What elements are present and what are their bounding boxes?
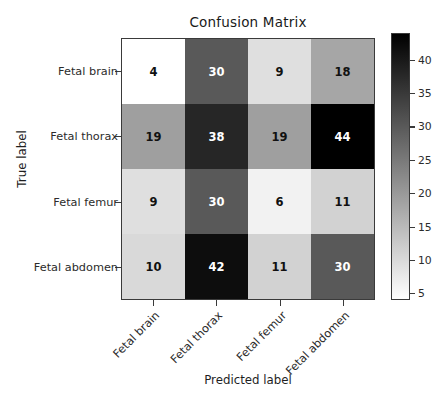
colorbar-tick-label: 30 bbox=[418, 120, 432, 133]
cell-value: 19 bbox=[271, 130, 287, 144]
cell-value: 4 bbox=[149, 65, 157, 79]
cell-value: 19 bbox=[145, 130, 161, 144]
colorbar-tick-mark bbox=[410, 227, 415, 228]
cell-value: 11 bbox=[271, 260, 287, 274]
heatmap-cell: 9 bbox=[122, 169, 185, 234]
x-tick-mark bbox=[153, 300, 154, 306]
heatmap-axes: 4309181938194493061110421130 bbox=[121, 38, 375, 300]
colorbar-tick-label: 10 bbox=[418, 253, 432, 266]
heatmap-cell: 6 bbox=[248, 169, 311, 234]
heatmap-cell: 30 bbox=[311, 234, 374, 299]
colorbar-tick-label: 15 bbox=[418, 220, 432, 233]
colorbar-tick-label: 25 bbox=[418, 153, 432, 166]
cell-value: 42 bbox=[208, 260, 224, 274]
heatmap-cell: 18 bbox=[311, 39, 374, 104]
heatmap-cell: 11 bbox=[311, 169, 374, 234]
heatmap-cell: 38 bbox=[185, 104, 248, 169]
heatmap-cell: 30 bbox=[185, 169, 248, 234]
colorbar-gradient bbox=[391, 33, 410, 300]
x-axis-label: Predicted label bbox=[121, 373, 375, 387]
cell-value: 30 bbox=[334, 260, 350, 274]
y-tick-label: Fetal abdomen bbox=[34, 261, 118, 274]
colorbar-tick-label: 20 bbox=[418, 187, 432, 200]
y-axis-label: True label bbox=[15, 79, 29, 239]
heatmap-cell: 11 bbox=[248, 234, 311, 299]
heatmap-cell: 44 bbox=[311, 104, 374, 169]
colorbar-tick-label: 5 bbox=[418, 287, 425, 300]
colorbar-tick-mark bbox=[410, 260, 415, 261]
x-tick-label: Fetal brain bbox=[11, 309, 162, 401]
cell-value: 10 bbox=[145, 260, 161, 274]
chart-title: Confusion Matrix bbox=[121, 14, 375, 30]
colorbar-tick-mark bbox=[410, 293, 415, 294]
colorbar-tick-mark bbox=[410, 93, 415, 94]
colorbar-tick-mark bbox=[410, 193, 415, 194]
y-tick-label: Fetal femur bbox=[53, 195, 118, 208]
cell-value: 18 bbox=[334, 65, 350, 79]
x-tick-label: Fetal abdomen bbox=[202, 309, 353, 401]
heatmap-cell: 9 bbox=[248, 39, 311, 104]
colorbar-tick-label: 35 bbox=[418, 87, 432, 100]
heatmap-cell: 10 bbox=[122, 234, 185, 299]
cell-value: 30 bbox=[208, 65, 224, 79]
x-tick-label: Fetal femur bbox=[138, 309, 289, 401]
heatmap-cell: 42 bbox=[185, 234, 248, 299]
y-tick-label: Fetal brain bbox=[58, 64, 118, 77]
x-tick-mark bbox=[343, 300, 344, 306]
cell-value: 6 bbox=[275, 195, 283, 209]
confusion-matrix-figure: Confusion Matrix 43091819381944930611104… bbox=[0, 0, 444, 401]
cell-value: 9 bbox=[275, 65, 283, 79]
cell-value: 11 bbox=[334, 195, 350, 209]
cell-value: 38 bbox=[208, 130, 224, 144]
x-tick-mark bbox=[216, 300, 217, 306]
cell-value: 30 bbox=[208, 195, 224, 209]
colorbar: 403530252015105 bbox=[391, 33, 410, 300]
heatmap-grid: 4309181938194493061110421130 bbox=[122, 39, 374, 299]
colorbar-tick-mark bbox=[410, 126, 415, 127]
cell-value: 9 bbox=[149, 195, 157, 209]
colorbar-tick-mark bbox=[410, 60, 415, 61]
x-tick-mark bbox=[280, 300, 281, 306]
heatmap-cell: 19 bbox=[248, 104, 311, 169]
heatmap-cell: 30 bbox=[185, 39, 248, 104]
y-tick-label: Fetal thorax bbox=[50, 130, 118, 143]
x-tick-label: Fetal thorax bbox=[75, 309, 226, 401]
colorbar-tick-label: 40 bbox=[418, 53, 432, 66]
colorbar-tick-mark bbox=[410, 160, 415, 161]
heatmap-cell: 19 bbox=[122, 104, 185, 169]
cell-value: 44 bbox=[334, 130, 350, 144]
heatmap-cell: 4 bbox=[122, 39, 185, 104]
